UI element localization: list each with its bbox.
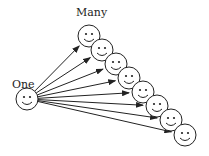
arrow <box>35 46 79 91</box>
one-to-many-diagram <box>0 0 209 156</box>
arrow <box>37 69 103 95</box>
smiley-face-icon <box>174 124 196 146</box>
faces <box>16 25 196 146</box>
smiley-face-icon <box>16 88 38 110</box>
